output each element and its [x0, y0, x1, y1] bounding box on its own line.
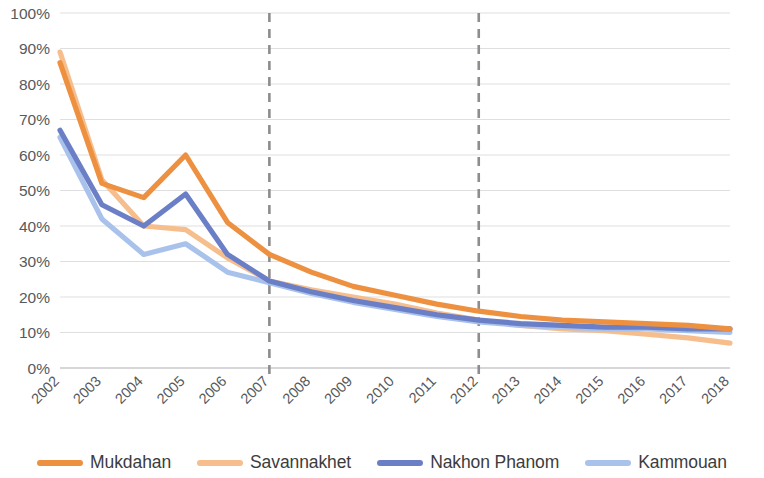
chart-plot-area: 0%10%20%30%40%50%60%70%80%90%100%2002200… — [0, 0, 764, 448]
y-axis-tick-label: 50% — [19, 182, 50, 199]
x-axis-tick-label: 2008 — [279, 373, 313, 407]
y-axis-tick-label: 60% — [19, 147, 50, 164]
y-axis-tick-label: 0% — [28, 360, 51, 377]
legend-item-label: Mukdahan — [90, 452, 171, 473]
x-axis-tick-label: 2009 — [321, 373, 355, 407]
y-axis-tick-label: 70% — [19, 111, 50, 128]
x-axis-tick-label: 2007 — [237, 373, 271, 407]
y-axis-tick-label: 30% — [19, 253, 50, 270]
x-axis-tick-label: 2005 — [154, 373, 188, 407]
y-axis-tick-label: 90% — [19, 40, 50, 57]
x-axis-tick-label: 2015 — [572, 373, 606, 407]
legend-item[interactable]: Mukdahan — [37, 452, 171, 473]
legend-color-swatch — [197, 460, 243, 466]
y-axis-tick-label: 20% — [19, 289, 50, 306]
x-axis-tick-label: 2013 — [489, 373, 523, 407]
legend-item[interactable]: Nakhon Phanom — [377, 452, 559, 473]
x-axis-tick-label: 2017 — [656, 373, 690, 407]
line-chart: 0%10%20%30%40%50%60%70%80%90%100%2002200… — [0, 0, 764, 478]
legend-color-swatch — [37, 460, 83, 466]
legend-item-label: Kammouan — [638, 452, 727, 473]
x-axis-tick-label: 2011 — [406, 373, 439, 406]
x-axis-tick-label: 2016 — [614, 373, 648, 407]
legend-item[interactable]: Kammouan — [585, 452, 727, 473]
legend-item[interactable]: Savannakhet — [197, 452, 351, 473]
legend-color-swatch — [585, 460, 631, 466]
series-line-mukdahan — [60, 63, 730, 329]
y-axis-tick-label: 100% — [10, 5, 50, 22]
x-axis-tick-label: 2003 — [70, 373, 104, 407]
chart-legend: MukdahanSavannakhetNakhon PhanomKammouan — [0, 447, 764, 478]
x-axis-tick-label: 2004 — [112, 373, 146, 407]
x-axis-tick-label: 2006 — [195, 373, 229, 407]
legend-item-label: Nakhon Phanom — [430, 452, 559, 473]
x-axis-tick-label: 2010 — [363, 373, 397, 407]
x-axis-tick-label: 2002 — [28, 373, 62, 407]
legend-item-label: Savannakhet — [250, 452, 351, 473]
series-line-savannakhet — [60, 52, 730, 343]
y-axis-tick-label: 10% — [19, 324, 50, 341]
x-axis-tick-label: 2012 — [447, 373, 481, 407]
x-axis-tick-label: 2014 — [530, 373, 564, 407]
legend-color-swatch — [377, 460, 423, 466]
y-axis-tick-label: 80% — [19, 76, 50, 93]
y-axis-tick-label: 40% — [19, 218, 50, 235]
x-axis-tick-label: 2018 — [698, 373, 732, 407]
